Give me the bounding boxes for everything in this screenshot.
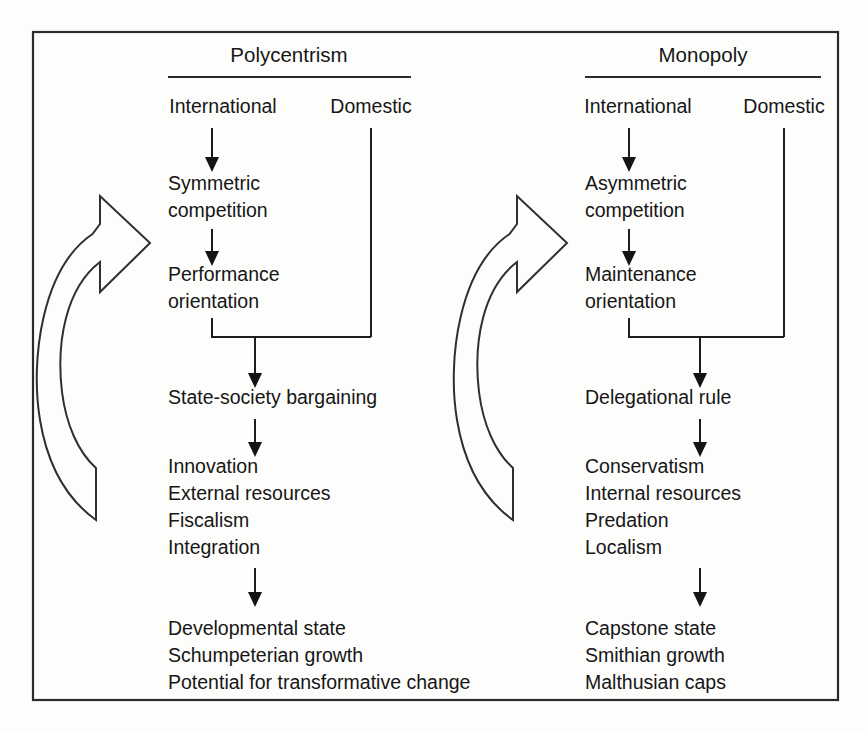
node-competition-left-line-2: competition <box>168 199 268 221</box>
column-polycentrism: Polycentrism International Domestic Symm… <box>37 43 471 693</box>
source-label-domestic-left: Domestic <box>330 95 412 117</box>
figure-border <box>33 32 838 700</box>
connector-merge-bar-left <box>212 318 371 337</box>
arrowhead-mechanisms-right <box>693 592 707 607</box>
node-mechanisms-left-line-2: External resources <box>168 482 331 504</box>
node-bargaining-right: Delegational rule <box>585 386 731 408</box>
node-mechanisms-left-line-4: Integration <box>168 536 260 558</box>
node-orientation-left-line-1: Performance <box>168 263 280 285</box>
column-title-polycentrism: Polycentrism <box>230 43 347 66</box>
arrowhead-international-left <box>205 157 219 172</box>
node-outcomes-right-line-1: Capstone state <box>585 617 716 639</box>
connector-merge-bar-right <box>629 318 784 337</box>
node-mechanisms-left-line-3: Fiscalism <box>168 509 249 531</box>
node-outcomes-left-line-3: Potential for transformative change <box>168 671 470 693</box>
node-outcomes-right-line-3: Malthusian caps <box>585 671 726 693</box>
node-mechanisms-right-line-2: Internal resources <box>585 482 741 504</box>
feedback-loop-arrow-left <box>37 196 150 520</box>
node-orientation-right-line-1: Maintenance <box>585 263 697 285</box>
node-mechanisms-left-line-1: Innovation <box>168 455 258 477</box>
source-label-international-right: International <box>584 95 691 117</box>
source-label-international-left: International <box>169 95 276 117</box>
node-mechanisms-right-line-3: Predation <box>585 509 668 531</box>
feedback-loop-arrow-right <box>454 196 567 520</box>
node-bargaining-left: State-society bargaining <box>168 386 377 408</box>
arrowhead-mechanisms-left <box>248 592 262 607</box>
node-orientation-right-line-2: orientation <box>585 290 676 312</box>
source-label-domestic-right: Domestic <box>743 95 825 117</box>
column-monopoly: Monopoly International Domestic Asymmetr… <box>454 43 825 693</box>
node-outcomes-right-line-2: Smithian growth <box>585 644 725 666</box>
node-competition-right-line-2: competition <box>585 199 685 221</box>
node-mechanisms-right-line-1: Conservatism <box>585 455 704 477</box>
node-mechanisms-right-line-4: Localism <box>585 536 662 558</box>
flowchart-diagram: Polycentrism International Domestic Symm… <box>0 0 866 731</box>
arrowhead-international-right <box>622 157 636 172</box>
node-competition-right-line-1: Asymmetric <box>585 172 687 194</box>
node-competition-left-line-1: Symmetric <box>168 172 260 194</box>
figure-container: Polycentrism International Domestic Symm… <box>0 0 866 731</box>
node-outcomes-left-line-2: Schumpeterian growth <box>168 644 363 666</box>
node-outcomes-left-line-1: Developmental state <box>168 617 346 639</box>
column-title-monopoly: Monopoly <box>659 43 749 66</box>
node-orientation-left-line-2: orientation <box>168 290 259 312</box>
